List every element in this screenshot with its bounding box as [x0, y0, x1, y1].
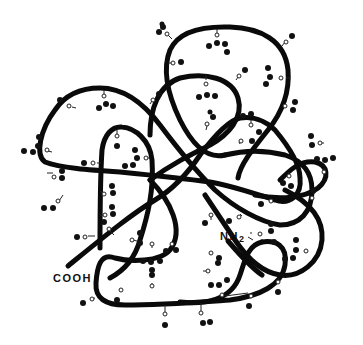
- side-chain: [236, 67, 248, 80]
- diagram-canvas: [0, 0, 363, 345]
- side-chain: [258, 199, 273, 207]
- c-terminus-label: COOH: [53, 272, 92, 284]
- side-chain: [41, 195, 63, 211]
- n-terminus-subscript: 2: [239, 234, 246, 244]
- side-chain: [74, 234, 95, 240]
- side-chain: [308, 133, 324, 148]
- side-chain: [122, 147, 150, 169]
- polypeptide-chain: [40, 27, 326, 305]
- side-chain: [202, 213, 213, 226]
- side-chain: [80, 297, 95, 306]
- glycoprotein-diagram: COOH NH2: [0, 0, 363, 345]
- side-chain: [156, 22, 172, 40]
- side-chain: [162, 305, 168, 328]
- side-chain: [47, 168, 65, 181]
- side-chain: [149, 272, 155, 288]
- side-chain: [81, 160, 101, 166]
- n-terminus-label: NH2: [220, 230, 245, 242]
- side-chain: [114, 288, 123, 303]
- side-chain: [282, 33, 295, 46]
- side-chain: [199, 303, 213, 326]
- side-chain: [203, 260, 221, 273]
- side-chain: [114, 130, 120, 149]
- side-chain: [206, 29, 230, 55]
- side-chain: [226, 214, 242, 224]
- side-chain: [168, 59, 184, 65]
- side-chain: [21, 134, 52, 155]
- side-chain: [205, 110, 216, 131]
- n-terminus-text: NH: [220, 230, 239, 242]
- side-chain: [96, 90, 116, 111]
